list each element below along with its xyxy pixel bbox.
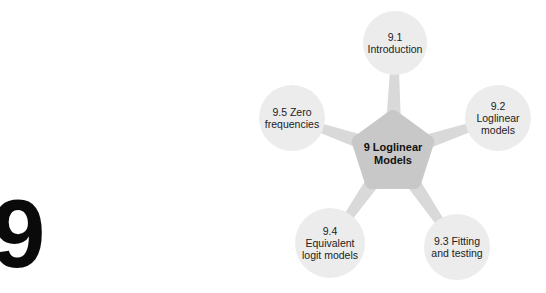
topic-label-line: 9.1 xyxy=(388,31,403,43)
center-label-line: Models xyxy=(374,154,412,166)
topic-label-line: 9.4 xyxy=(323,225,338,237)
topic-label-line: models xyxy=(481,124,515,136)
topic-label-line: Loglinear xyxy=(476,112,520,124)
topic-label-line: Equivalent xyxy=(305,237,354,249)
topic-node-9-4[interactable]: 9.4Equivalentlogit models xyxy=(295,208,365,278)
center-label-line: 9 Loglinear xyxy=(364,141,423,153)
mind-map: 9 LoglinearModels 9.1Introduction9.2Logl… xyxy=(0,0,546,293)
topic-node-9-1[interactable]: 9.1Introduction xyxy=(363,11,427,75)
topic-label-line: and testing xyxy=(431,247,483,259)
topic-label-line: frequencies xyxy=(265,118,319,130)
topic-node-label: 9.5 Zerofrequencies xyxy=(265,106,319,130)
topic-label-line: logit models xyxy=(302,249,358,261)
topic-label-line: Introduction xyxy=(368,43,423,55)
topic-label-line: 9.2 xyxy=(491,100,506,112)
topic-node-label: 9.3 Fittingand testing xyxy=(431,235,483,259)
topic-label-line: 9.5 Zero xyxy=(272,106,311,118)
topic-node-9-5[interactable]: 9.5 Zerofrequencies xyxy=(259,85,325,151)
topic-node-9-2[interactable]: 9.2Loglinearmodels xyxy=(465,85,531,151)
topic-node-9-3[interactable]: 9.3 Fittingand testing xyxy=(424,214,490,280)
topic-label-line: 9.3 Fitting xyxy=(434,235,480,247)
